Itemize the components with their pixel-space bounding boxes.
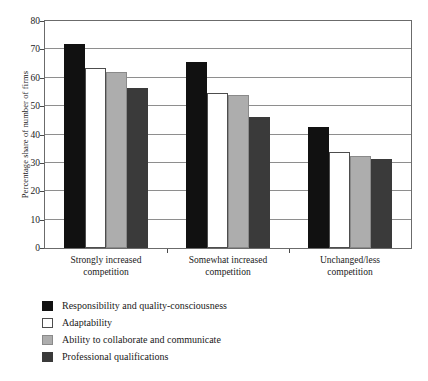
bar — [350, 156, 371, 248]
bar-chart-figure: Percentage share of number of firms 0102… — [0, 0, 428, 381]
bar-group — [186, 21, 270, 248]
legend-item: Ability to collaborate and communicate — [42, 331, 372, 348]
bar — [186, 62, 207, 248]
x-cat-label-line: competition — [163, 266, 293, 278]
bars-layer — [45, 21, 411, 248]
legend-swatch-icon — [42, 318, 53, 328]
legend-item-label: Adaptability — [62, 317, 112, 329]
legend-item: Adaptability — [42, 314, 372, 331]
y-tick-label: 30 — [14, 158, 40, 168]
legend-item: Responsibility and quality-consciousness — [42, 297, 372, 314]
bar — [127, 88, 148, 248]
x-category-label: Unchanged/lesscompetition — [285, 254, 415, 278]
x-cat-label-line: Somewhat increased — [163, 254, 293, 266]
bar — [228, 95, 249, 248]
legend-swatch-icon — [42, 335, 53, 345]
x-tick-mark — [167, 249, 168, 253]
y-tick-mark — [40, 78, 44, 79]
legend-item: Professional qualifications — [42, 348, 372, 365]
chart-legend: Responsibility and quality-consciousness… — [42, 297, 372, 365]
x-cat-label-line: competition — [285, 266, 415, 278]
bar — [249, 117, 270, 248]
y-tick-label: 40 — [14, 130, 40, 140]
bar — [371, 159, 392, 248]
bar — [85, 68, 106, 248]
y-tick-label: 10 — [14, 215, 40, 225]
y-tick-label: 0 — [14, 243, 40, 253]
y-tick-mark — [40, 49, 44, 50]
bar — [308, 127, 329, 248]
y-tick-mark — [40, 220, 44, 221]
bar — [207, 93, 228, 248]
x-category-label: Somewhat increasedcompetition — [163, 254, 293, 278]
legend-item-label: Responsibility and quality-consciousness — [62, 300, 227, 312]
y-tick-label: 70 — [14, 44, 40, 54]
x-cat-label-line: Unchanged/less — [285, 254, 415, 266]
bar-group — [64, 21, 148, 248]
x-cat-label-line: Strongly increased — [41, 254, 171, 266]
x-tick-mark — [289, 249, 290, 253]
y-tick-mark — [40, 191, 44, 192]
legend-item-label: Ability to collaborate and communicate — [62, 334, 221, 346]
y-tick-mark — [40, 106, 44, 107]
bar — [64, 44, 85, 248]
legend-swatch-icon — [42, 301, 53, 311]
y-tick-mark — [40, 163, 44, 164]
y-tick-label: 80 — [14, 16, 40, 26]
bar — [329, 152, 350, 248]
y-tick-label: 20 — [14, 186, 40, 196]
y-tick-mark — [40, 135, 44, 136]
legend-item-label: Professional qualifications — [62, 351, 168, 363]
bar — [106, 72, 127, 248]
bar-group — [308, 21, 392, 248]
y-tick-mark — [40, 21, 44, 22]
x-category-label: Strongly increasedcompetition — [41, 254, 171, 278]
y-tick-label: 60 — [14, 73, 40, 83]
x-cat-label-line: competition — [41, 266, 171, 278]
y-tick-mark — [40, 248, 44, 249]
y-tick-label: 50 — [14, 101, 40, 111]
legend-swatch-icon — [42, 352, 53, 362]
